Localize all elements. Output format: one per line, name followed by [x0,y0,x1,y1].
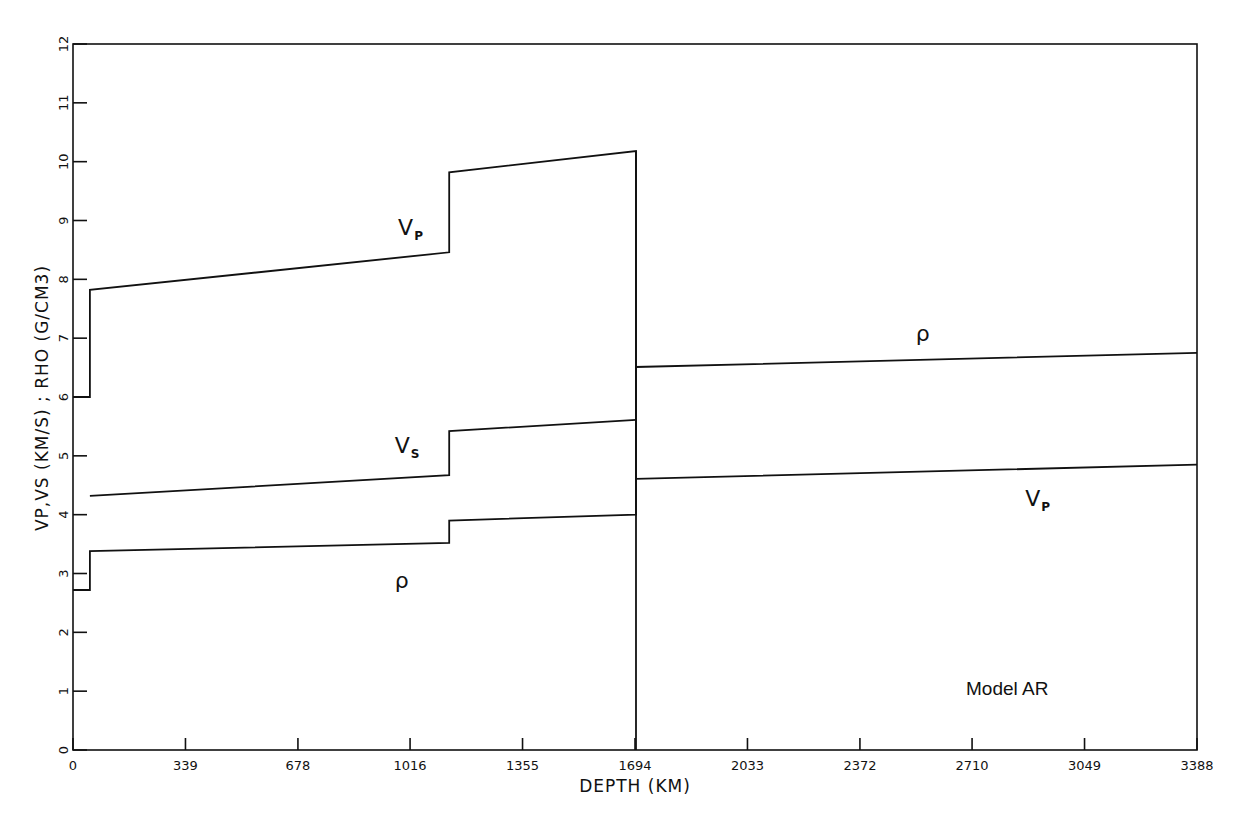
plot-frame [73,44,1197,750]
y-tick-label: 12 [56,36,71,53]
y-tick-label: 5 [56,452,71,460]
x-axis-title: DEPTH (KM) [579,776,691,796]
y-axis-ticks: 0123456789101112 [56,36,88,754]
curve-label-subscript: P [414,229,423,243]
x-tick-label: 1016 [394,758,427,773]
y-tick-label: 4 [56,511,71,519]
x-tick-label: 1694 [618,758,651,773]
plot-border [73,44,1197,750]
y-tick-label: 1 [56,687,71,695]
x-tick-label: 339 [173,758,198,773]
y-tick-label: 7 [56,334,71,342]
curve-label: ρ [916,321,930,346]
y-tick-label: 11 [56,95,71,112]
x-tick-label: 678 [286,758,311,773]
curve-label-subscript: P [1041,500,1050,514]
x-axis-ticks: 033967810161355169420332372271030493388 [69,738,1214,773]
x-tick-label: 2372 [843,758,876,773]
y-tick-label: 2 [56,628,71,636]
x-tick-label: 2710 [956,758,989,773]
y-tick-label: 9 [56,216,71,224]
x-tick-label: 1355 [506,758,539,773]
x-tick-label: 3049 [1068,758,1101,773]
curve-labels: VPVSρρVP [395,215,1050,593]
curve-label: VP [1025,486,1050,514]
depth-profile-chart: 0123456789101112 03396781016135516942033… [0,0,1239,817]
x-tick-label: 2033 [731,758,764,773]
data-curves [73,151,1197,750]
curve-label: VP [398,215,423,243]
curve-rho [73,353,1197,590]
y-axis-title: VP,VS (KM/S) ; RHO (G/CM3) [32,265,52,531]
y-tick-label: 6 [56,393,71,401]
curve-label: ρ [395,568,409,593]
model-annotation: Model AR [966,678,1048,699]
y-tick-label: 0 [56,746,71,754]
curve-vp [73,151,1197,479]
curve-vs [90,420,636,496]
y-tick-label: 8 [56,275,71,283]
x-tick-label: 3388 [1180,758,1213,773]
y-tick-label: 10 [56,153,71,170]
curve-label-subscript: S [411,447,420,461]
curve-label: VS [395,433,420,461]
y-tick-label: 3 [56,569,71,577]
x-tick-label: 0 [69,758,77,773]
